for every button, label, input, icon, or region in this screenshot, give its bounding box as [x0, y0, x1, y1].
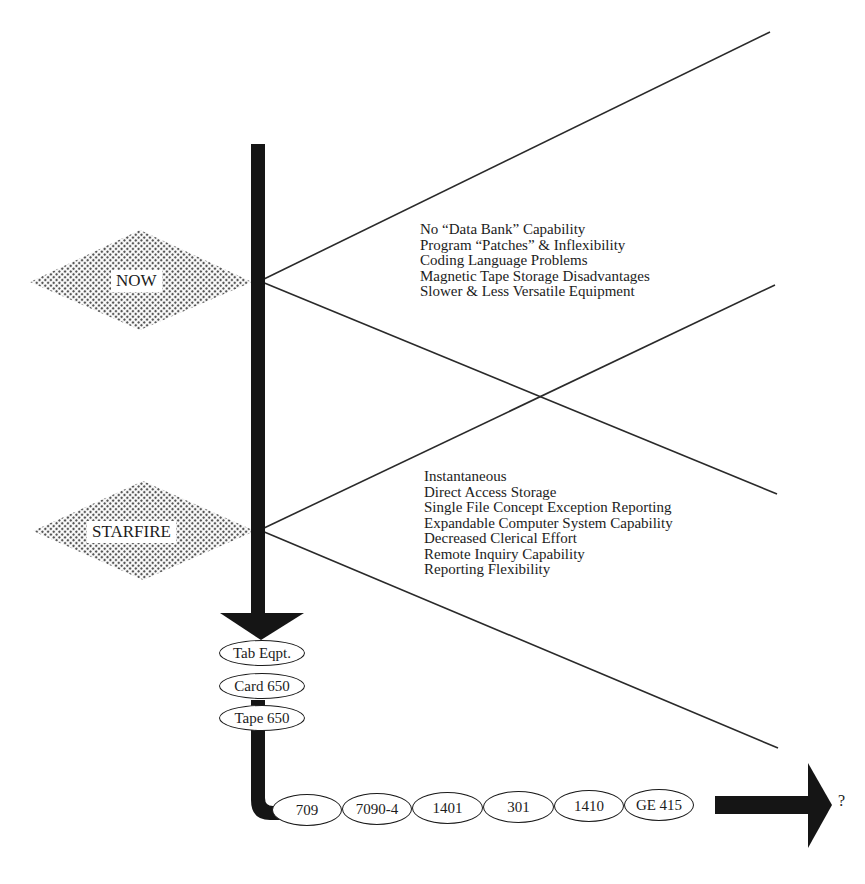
list-item: Program “Patches” & Inflexibility	[420, 238, 650, 254]
down-arrow-head-icon	[220, 613, 304, 640]
now-problems-list: No “Data Bank” Capability Program “Patch…	[420, 222, 650, 300]
list-item: No “Data Bank” Capability	[420, 222, 650, 238]
list-item: Slower & Less Versatile Equipment	[420, 284, 650, 300]
system-oval-709: 709	[272, 794, 342, 826]
system-oval-card-650: Card 650	[219, 673, 305, 699]
list-item: Decreased Clerical Effort	[424, 531, 673, 547]
starfire-benefits-list: Instantaneous Direct Access Storage Sing…	[424, 469, 673, 578]
list-item: Remote Inquiry Capability	[424, 547, 673, 563]
diagram-canvas	[0, 0, 865, 884]
now-marker-label: NOW	[111, 270, 162, 292]
list-item: Reporting Flexibility	[424, 562, 673, 578]
list-item: Coding Language Problems	[420, 253, 650, 269]
system-oval-ge-415: GE 415	[624, 789, 694, 821]
list-item: Magnetic Tape Storage Disadvantages	[420, 269, 650, 285]
future-question-mark: ?	[838, 792, 845, 810]
system-oval-1401: 1401	[412, 792, 483, 824]
starfire-marker-label: STARFIRE	[87, 521, 176, 543]
list-item: Single File Concept Exception Reporting	[424, 500, 673, 516]
list-item: Instantaneous	[424, 469, 673, 485]
now-lower-ray	[262, 282, 777, 494]
timeline-vertical-bar	[251, 144, 265, 614]
right-arrow-head-icon	[808, 763, 832, 848]
list-item: Direct Access Storage	[424, 485, 673, 501]
list-item: Expandable Computer System Capability	[424, 516, 673, 532]
timeline-horizontal-bar	[715, 796, 815, 814]
system-oval-1410: 1410	[554, 790, 624, 822]
system-oval-301: 301	[483, 791, 554, 823]
system-oval-tab-eqpt: Tab Eqpt.	[219, 640, 305, 666]
system-oval-7090-4: 7090-4	[342, 793, 412, 825]
system-oval-tape-650: Tape 650	[219, 705, 305, 731]
